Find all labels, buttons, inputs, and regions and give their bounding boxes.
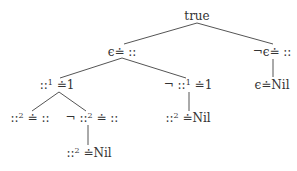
node-label: ϵ≐ :: <box>108 45 137 59</box>
node-label-pre: :: <box>40 78 48 92</box>
node-label: ϵ≐Nil <box>255 78 290 92</box>
tree-node-cons2-eq-cons: ::2 ≐ :: <box>11 111 50 125</box>
node-label: true <box>184 9 209 23</box>
edge-n1-n4 <box>122 58 186 78</box>
node-label-post: ≐ :: <box>24 111 50 125</box>
node-label: ¬ϵ≐ :: <box>253 45 292 59</box>
tree-node-not-eps-cons: ¬ϵ≐ :: <box>253 45 292 59</box>
edge-n3-n7 <box>59 92 86 111</box>
node-label-pre: ¬ :: <box>66 111 88 125</box>
edge-root-n1 <box>124 23 197 44</box>
node-label-pre: :: <box>11 111 19 125</box>
tree-node-not-cons1-eq-1: ¬ ::1 ≐1 <box>164 78 213 92</box>
tree-node-not-cons2-eq-cons: ¬ ::2 ≐ :: <box>66 111 119 125</box>
edge-n3-n6 <box>32 92 59 111</box>
node-label-pre: :: <box>66 146 74 160</box>
node-label-post: ≐ :: <box>93 111 119 125</box>
node-label-pre: :: <box>165 111 173 125</box>
node-label-post: ≐1 <box>53 78 75 92</box>
tree-node-eps-nil: ϵ≐Nil <box>255 78 290 92</box>
tree-node-cons2-eq-nil-right: ::2 ≐Nil <box>165 111 210 125</box>
node-label-pre: ¬ :: <box>164 78 186 92</box>
node-label-post: ≐Nil <box>80 146 112 160</box>
tree-node-root: true <box>184 9 209 23</box>
edge-root-n2 <box>197 23 273 44</box>
edge-n1-n3 <box>60 58 122 78</box>
tree-node-cons1-eq-1: ::1 ≐1 <box>40 78 75 92</box>
node-label-post: ≐1 <box>191 78 213 92</box>
tree-node-cons2-eq-nil-left: ::2 ≐Nil <box>66 146 111 160</box>
node-label-post: ≐Nil <box>179 111 211 125</box>
tree-node-eps-cons: ϵ≐ :: <box>108 45 137 59</box>
